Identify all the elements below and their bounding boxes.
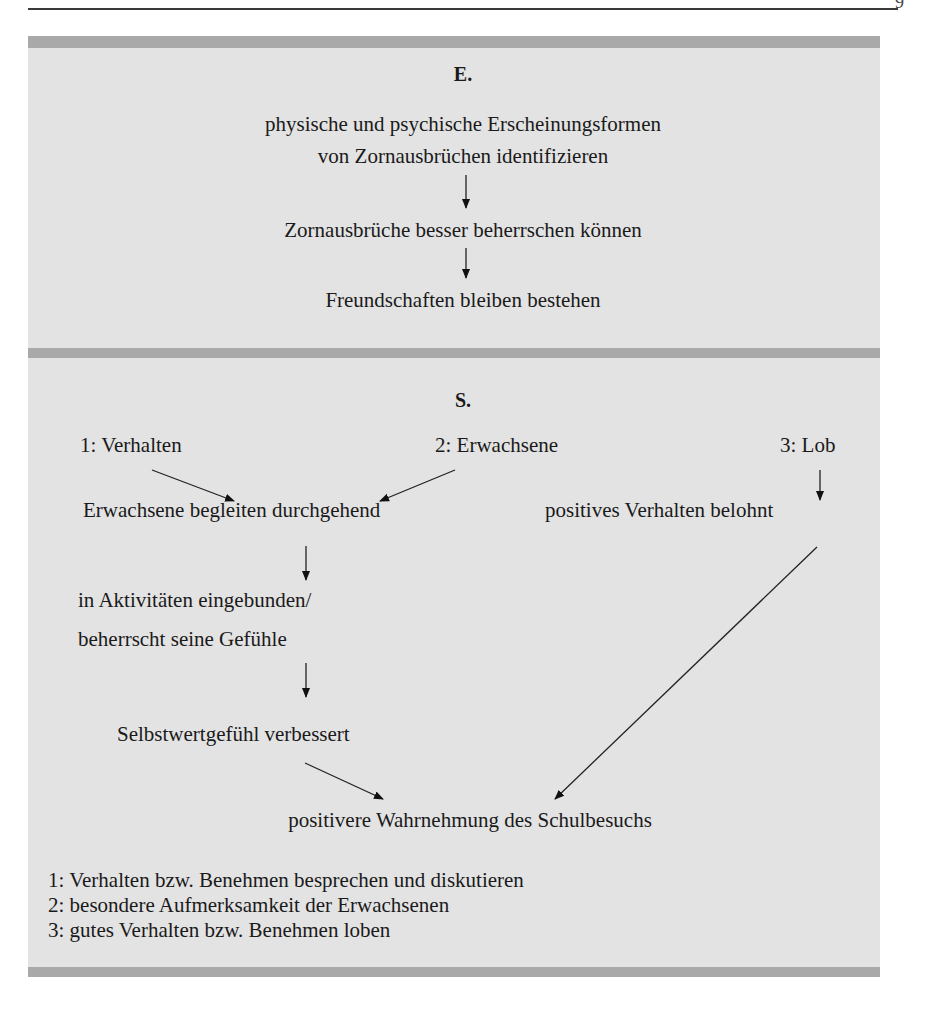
legend-item-1: 1: Verhalten bzw. Benehmen besprechen un… (48, 868, 524, 892)
page-header-rule (28, 8, 898, 10)
s-node-reward: positives Verhalten belohnt (545, 498, 773, 522)
s-source-lob: 3: Lob (780, 433, 835, 457)
s-source-verhalten: 1: Verhalten (80, 433, 182, 457)
s-node-selfesteem: Selbstwertgefühl verbessert (117, 722, 350, 746)
legend-item-3: 3: gutes Verhalten bzw. Benehmen loben (48, 918, 390, 942)
e-node-2: Zornausbrüche besser beherrschen können (284, 218, 641, 242)
s-node-accompany: Erwachsene begleiten durchgehend (83, 498, 380, 522)
s-node-outcome: positivere Wahrnehmung des Schulbesuchs (288, 808, 652, 832)
legend-item-2: 2: besondere Aufmerksamkeit der Erwachse… (48, 893, 449, 917)
section-separator-band (28, 348, 880, 358)
section-s-bottom-band (28, 967, 880, 977)
e-node-3: Freundschaften bleiben bestehen (325, 288, 600, 312)
e-node-1-line2: von Zornausbrüchen identifizieren (318, 144, 608, 168)
section-s-title: S. (455, 388, 471, 412)
section-e-title: E. (454, 62, 472, 86)
s-source-erwachsene: 2: Erwachsene (435, 433, 558, 457)
section-e-top-band (28, 36, 880, 48)
page-number: 9 (895, 0, 904, 13)
s-node-activities-line2: beherrscht seine Gefühle (78, 627, 287, 651)
s-node-activities-line1: in Aktivitäten eingebunden/ (78, 588, 311, 612)
e-node-1-line1: physische und psychische Erscheinungsfor… (265, 112, 661, 136)
